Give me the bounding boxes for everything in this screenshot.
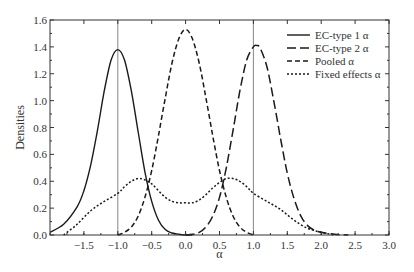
x-tick-label: 2.5 <box>348 239 362 251</box>
legend-item: Fixed effects α <box>287 68 381 80</box>
legend-item: EC-type 2 α <box>287 42 369 54</box>
x-tick-label: −1.0 <box>108 239 128 251</box>
x-tick-label: 2.0 <box>314 239 328 251</box>
x-tick-label: −0.5 <box>142 239 162 251</box>
x-tick-label: 1.0 <box>247 239 261 251</box>
x-tick-label: 1.5 <box>280 239 294 251</box>
legend-label: EC-type 2 α <box>315 42 369 54</box>
legend-item: Pooled α <box>287 55 354 67</box>
series-line-4 <box>64 178 335 235</box>
x-tick-label: 0.0 <box>179 239 193 251</box>
legend-label: EC-type 1 α <box>315 29 369 41</box>
series-line-1 <box>50 50 192 235</box>
legend-label: Pooled α <box>315 55 354 67</box>
legend: EC-type 1 αEC-type 2 αPooled αFixed effe… <box>287 29 381 80</box>
series-lines <box>50 29 348 235</box>
y-tick-label: 0.8 <box>33 122 47 134</box>
x-tick-label: 3.0 <box>382 239 396 251</box>
y-tick-label: 0.4 <box>33 175 47 187</box>
x-axis-label: α <box>216 247 223 261</box>
y-tick-label: 0.2 <box>33 202 47 214</box>
density-chart: −1.5−1.0−0.50.00.51.01.52.02.53.0 0.00.2… <box>0 0 414 272</box>
y-tick-label: 1.0 <box>33 95 47 107</box>
x-tick-label: −1.5 <box>74 239 94 251</box>
y-tick-label: 1.6 <box>33 14 47 26</box>
y-axis-label: Densities <box>13 105 27 150</box>
y-tick-label: 1.4 <box>33 41 47 53</box>
y-tick-label: 0.6 <box>33 148 47 160</box>
y-tick-label: 1.2 <box>33 68 47 80</box>
legend-item: EC-type 1 α <box>287 29 369 41</box>
legend-label: Fixed effects α <box>315 68 381 80</box>
y-tick-label: 0.0 <box>33 229 47 241</box>
